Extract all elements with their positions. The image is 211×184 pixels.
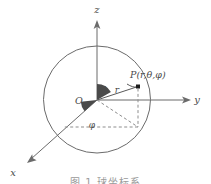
point-label-leader-line: [127, 84, 137, 87]
phi-angle-wedge: [81, 100, 97, 111]
axis-x: [27, 100, 97, 163]
radius-label: r: [115, 85, 120, 95]
figure-root: z y x O θ φ r P(r,θ,φ) 图 1 球坐标系: [0, 0, 211, 184]
point-p-label: P(r,θ,φ): [129, 69, 166, 80]
axis-z-label: z: [93, 4, 100, 15]
axis-y-label: y: [193, 94, 200, 105]
axis-y: [97, 97, 191, 104]
spherical-coordinates-diagram: z y x O θ φ r P(r,θ,φ): [0, 0, 211, 184]
figure-caption: 图 1 球坐标系: [0, 177, 211, 184]
phi-angle-label: φ: [89, 120, 96, 130]
point-p-marker: [136, 85, 140, 89]
theta-angle-label: θ: [101, 85, 107, 95]
dashed-projection-radius-line: [97, 100, 138, 127]
origin-label: O: [75, 95, 83, 106]
